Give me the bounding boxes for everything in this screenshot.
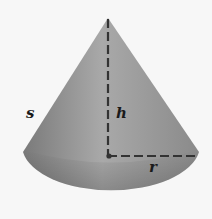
height-label: h xyxy=(116,104,127,122)
slant-height-label: s xyxy=(26,104,34,122)
cone-body xyxy=(23,18,199,190)
radius-label: r xyxy=(149,158,157,176)
center-point xyxy=(106,153,111,158)
